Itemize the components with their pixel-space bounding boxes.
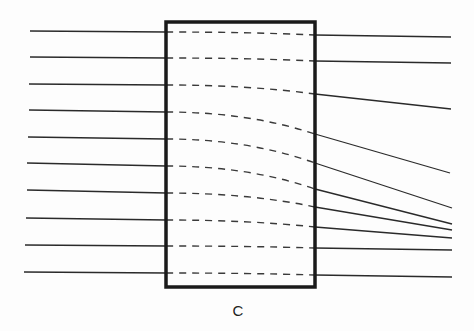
incoming-ray bbox=[25, 245, 166, 246]
outgoing-ray bbox=[315, 134, 450, 173]
incoming-ray bbox=[29, 84, 166, 85]
outgoing-ray bbox=[315, 94, 451, 109]
medium-block bbox=[166, 22, 315, 287]
incoming-ray bbox=[27, 190, 166, 193]
outgoing-ray bbox=[315, 227, 452, 238]
internal-ray bbox=[166, 32, 315, 35]
incoming-ray bbox=[29, 110, 166, 112]
diagram-label: C bbox=[233, 302, 244, 319]
internal-ray bbox=[166, 220, 315, 227]
internal-ray bbox=[166, 85, 315, 94]
outgoing-ray bbox=[315, 275, 452, 277]
incoming-ray bbox=[27, 163, 166, 166]
outgoing-rays bbox=[315, 35, 452, 277]
outgoing-ray bbox=[315, 35, 451, 37]
incoming-ray bbox=[30, 57, 166, 58]
internal-ray bbox=[166, 193, 315, 207]
incoming-ray bbox=[28, 137, 166, 139]
internal-ray bbox=[166, 246, 315, 248]
outgoing-ray bbox=[315, 248, 452, 250]
incoming-ray bbox=[30, 31, 166, 32]
internal-ray bbox=[166, 112, 315, 134]
internal-ray bbox=[166, 139, 315, 163]
incoming-ray bbox=[24, 272, 166, 273]
outgoing-ray bbox=[315, 61, 451, 63]
internal-ray bbox=[166, 273, 315, 275]
internal-dashed-rays bbox=[166, 32, 315, 275]
outgoing-ray bbox=[315, 163, 452, 208]
incoming-ray bbox=[26, 218, 166, 220]
refraction-diagram: C bbox=[0, 0, 474, 331]
internal-ray bbox=[166, 166, 315, 189]
incoming-rays bbox=[24, 31, 166, 273]
internal-ray bbox=[166, 58, 315, 61]
